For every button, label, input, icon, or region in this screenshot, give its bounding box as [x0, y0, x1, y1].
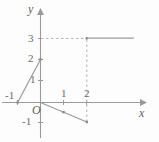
x-tick-label-neg1: -1: [5, 90, 14, 101]
point-marker: [85, 37, 88, 40]
x-axis-label: x: [139, 107, 144, 119]
y-axis-arrow-icon: [37, 8, 44, 15]
y-tick-label-3: 3: [28, 33, 34, 44]
origin-label: O: [32, 104, 41, 116]
y-axis-label: y: [28, 3, 33, 15]
x-tick-label-1: 1: [61, 88, 67, 99]
x-axis-arrow-icon: [140, 99, 147, 106]
point-marker: [85, 121, 88, 124]
point-marker: [16, 101, 19, 104]
coordinate-plane-figure: y x O 3 2 1 -1 -1 1 2: [0, 0, 159, 142]
y-tick-label-neg1: -1: [22, 116, 31, 127]
y-tick-label-1: 1: [30, 74, 36, 85]
point-marker: [39, 58, 42, 61]
y-tick-label-2: 2: [28, 53, 34, 64]
x-tick-label-2: 2: [84, 88, 90, 99]
point-marker: [62, 111, 65, 114]
